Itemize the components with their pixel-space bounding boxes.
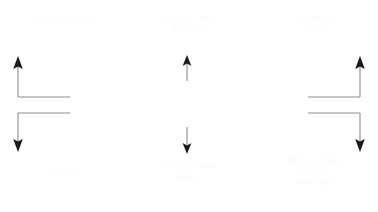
arrow-group-left bbox=[0, 55, 126, 155]
caption-bottom-center: भी. फीसे जाफाप भारीका । bbox=[127, 162, 251, 184]
elbow-arrow-up-left bbox=[13, 56, 70, 97]
straight-arrow-down-center bbox=[183, 127, 192, 154]
caption-bottom-left: भा. आइसी bbox=[1, 166, 125, 177]
diagram-canvas: इसका व आगे फटे । भा. आइसी रिक जो ई. bbox=[0, 0, 378, 212]
caption-top-left: इसका व आगे फटे । bbox=[1, 14, 125, 25]
caption-top-center: रिक जो ई. भाषा फीजनी प्रेस bbox=[127, 14, 251, 36]
diagram-column-right: राि. जिसेक भ क्षेत्री इंटर फिरि. जो वो फ… bbox=[252, 0, 378, 212]
elbow-arrow-up-right bbox=[308, 56, 365, 97]
arrow-group-center bbox=[126, 55, 252, 155]
arrow-group-right bbox=[252, 55, 378, 155]
straight-arrow-up-center bbox=[183, 55, 192, 81]
elbow-arrow-down-left bbox=[13, 113, 70, 152]
caption-top-right: राि. जिसेक भ क्षेत्री इंटर bbox=[253, 14, 377, 36]
elbow-arrow-down-right bbox=[308, 113, 365, 152]
caption-bottom-right: फिरि. जो वो फेस- भरणीकफ फजाए फिल । bbox=[253, 156, 377, 189]
diagram-column-left: इसका व आगे फटे । भा. आइसी bbox=[0, 0, 126, 212]
diagram-column-center: रिक जो ई. भाषा फीजनी प्रेस भी. फीसे जाफा… bbox=[126, 0, 252, 212]
